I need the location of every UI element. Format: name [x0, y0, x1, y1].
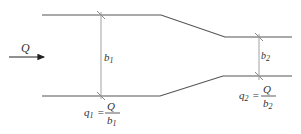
width-b2-label: b2 — [261, 50, 270, 63]
q1-formula: q1 = Q b1 — [84, 100, 120, 128]
svg-text:q2: q2 — [239, 89, 249, 103]
channel-top-wall — [42, 15, 292, 37]
q2-formula: q2 = Q b2 — [239, 83, 276, 111]
svg-text:Q: Q — [263, 83, 271, 95]
svg-text:q1: q1 — [84, 106, 94, 120]
width-b1-label: b1 — [104, 51, 114, 65]
svg-text:Q: Q — [107, 100, 115, 112]
svg-text:=: = — [252, 89, 259, 101]
svg-text:b1: b1 — [107, 114, 117, 128]
flow-label: Q — [21, 41, 30, 55]
svg-text:=: = — [97, 106, 104, 118]
channel-diagram: Q b1 b2 q1 = Q b1 q2 = Q b2 — [0, 0, 301, 134]
svg-text:b2: b2 — [263, 97, 273, 111]
